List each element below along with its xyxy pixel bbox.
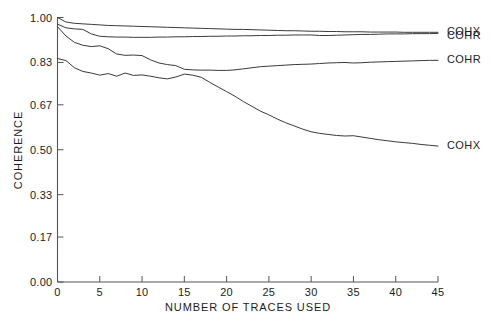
y-tick-label: 0.17 (30, 231, 53, 243)
x-tick-label: 15 (178, 286, 191, 298)
series-line-0 (58, 18, 439, 33)
series-line-2 (58, 27, 439, 71)
x-tick-label: 25 (262, 286, 275, 298)
x-tick-label: 35 (347, 286, 360, 298)
y-tick-labels: 0.000.170.330.500.670.831.00 (30, 12, 53, 289)
x-tick-label: 10 (136, 286, 149, 298)
series-labels: COHXCOHRCOHRCOHX (447, 25, 481, 152)
x-tick-label: 30 (305, 286, 318, 298)
y-tick-label: 0.33 (30, 189, 53, 201)
x-tick-labels: 051015202530354045 (54, 286, 444, 298)
y-tick-label: 0.00 (30, 276, 53, 288)
y-tick-label: 0.83 (30, 56, 53, 68)
series-label-1: COHR (447, 29, 481, 41)
coherence-chart: 0.000.170.330.500.670.831.00 05101520253… (0, 0, 492, 326)
plot-area: 0.000.170.330.500.670.831.00 05101520253… (0, 0, 492, 326)
x-tick-label: 20 (220, 286, 233, 298)
x-axis-title: NUMBER OF TRACES USED (165, 301, 331, 313)
y-axis-title: COHERENCE (12, 111, 24, 189)
series-label-3: COHX (447, 139, 481, 151)
series-label-2: COHR (447, 53, 481, 65)
tick-marks (58, 18, 439, 283)
y-tick-label: 0.67 (30, 99, 53, 111)
x-tick-label: 45 (432, 286, 445, 298)
data-series (58, 18, 439, 147)
y-tick-label: 1.00 (30, 12, 53, 24)
axes (58, 18, 439, 283)
series-line-3 (58, 59, 439, 147)
x-tick-label: 0 (54, 286, 60, 298)
x-tick-label: 5 (97, 286, 103, 298)
y-tick-label: 0.50 (30, 144, 53, 156)
x-tick-label: 40 (389, 286, 402, 298)
